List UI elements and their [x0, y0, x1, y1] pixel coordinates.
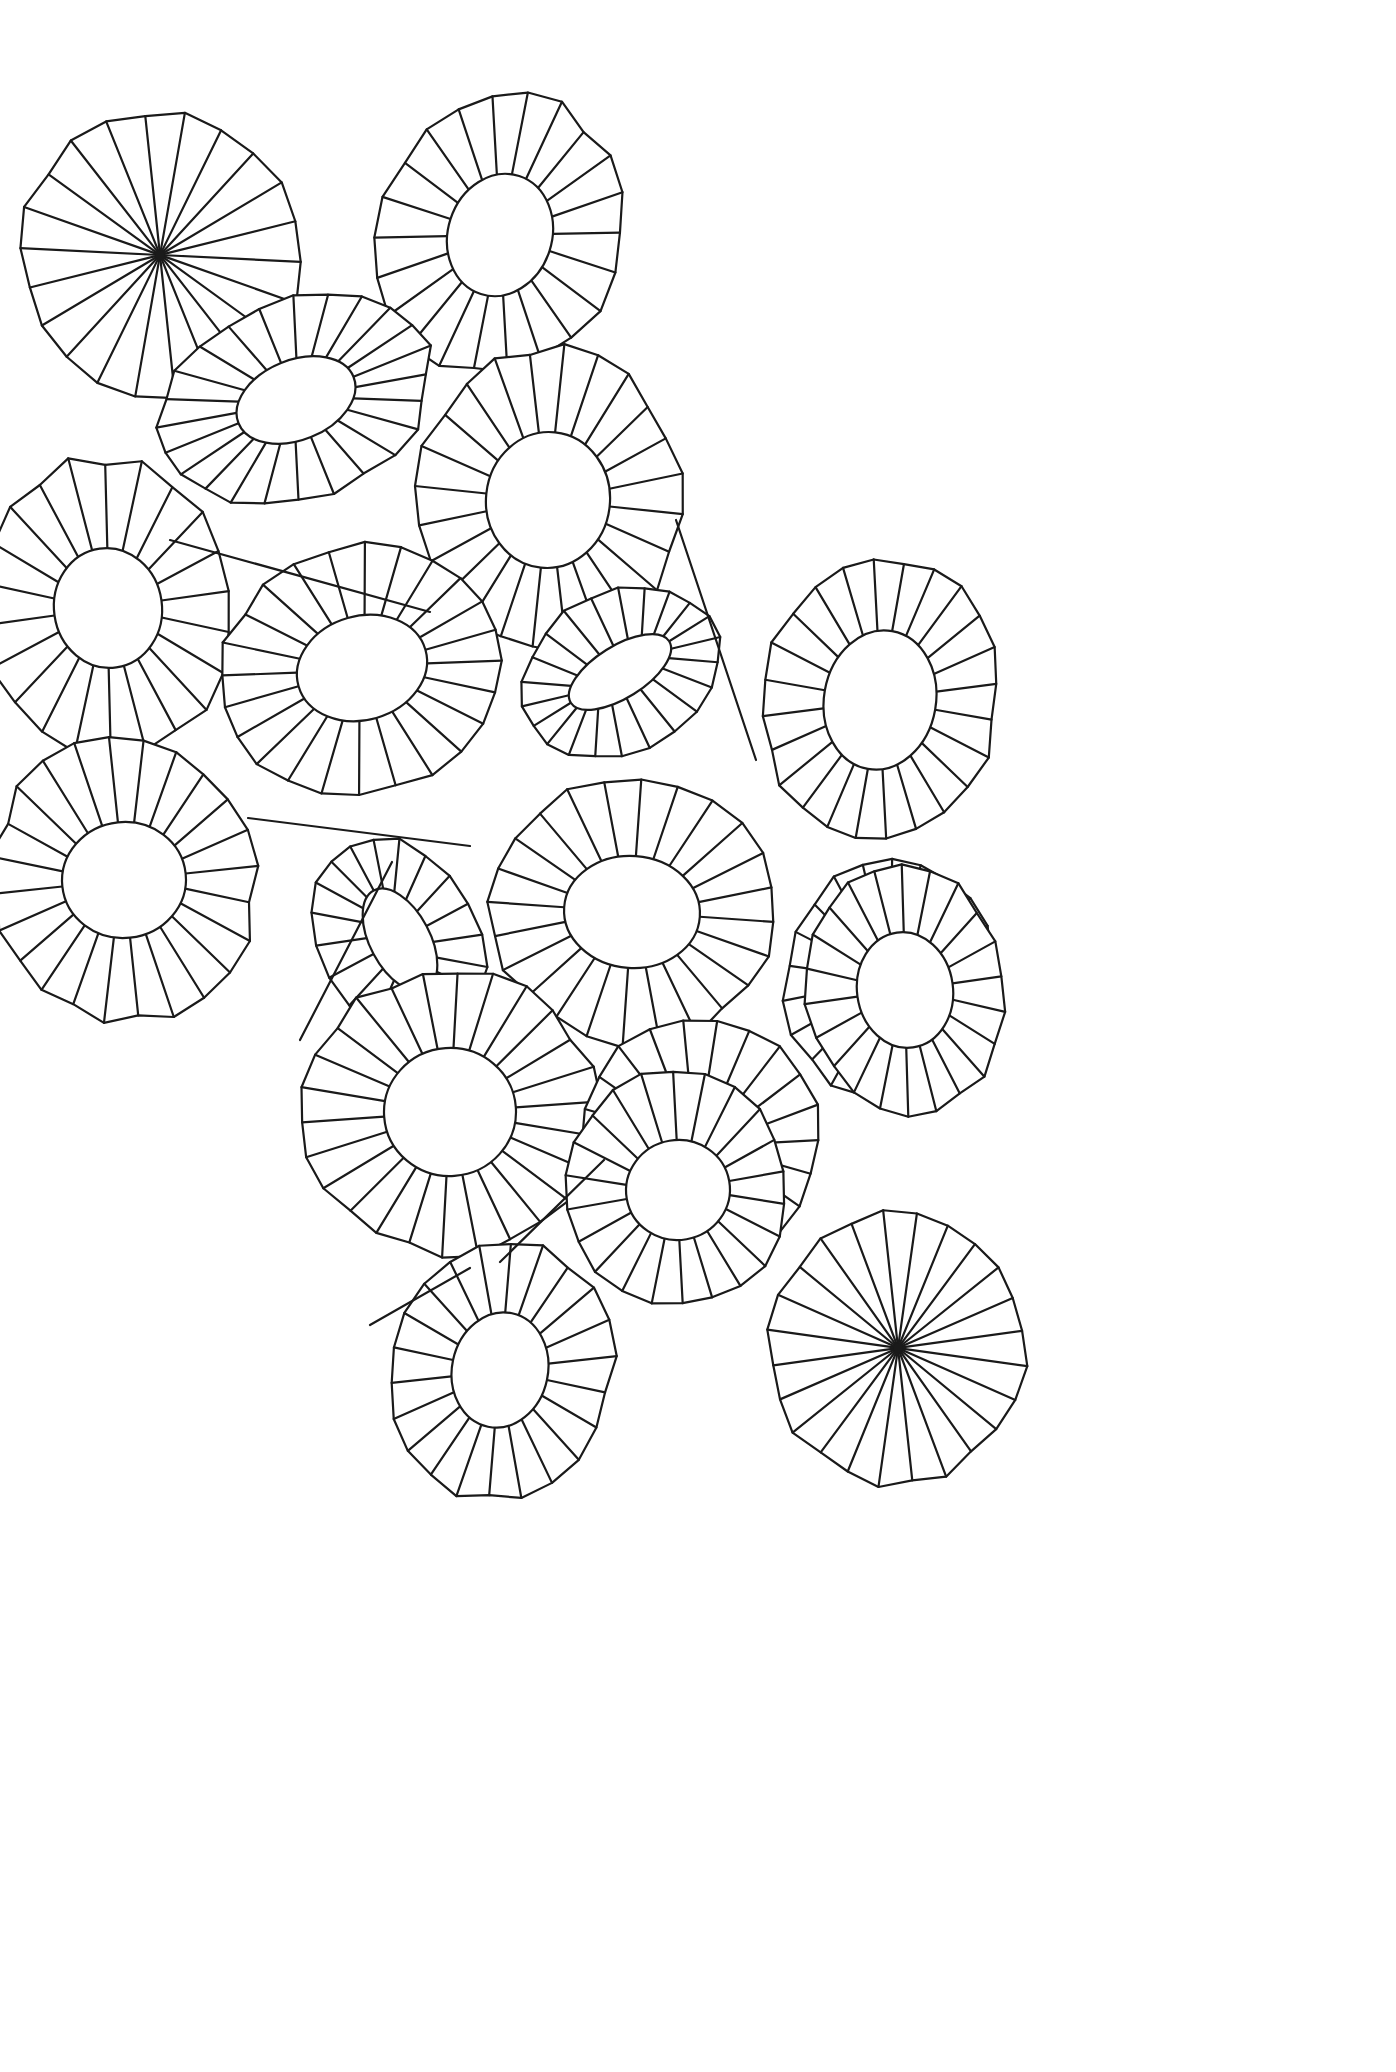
rosette-field-svg [0, 0, 1396, 2072]
rosette-left-edge [0, 458, 229, 762]
rosette-convergence-node [156, 251, 165, 260]
rosette-convergence-node [894, 1344, 903, 1353]
rosette-bottom-mid-right [566, 1072, 784, 1303]
artwork-canvas [0, 0, 1396, 2072]
rosette-spoke [374, 236, 447, 237]
rosette-spoke [553, 233, 620, 234]
